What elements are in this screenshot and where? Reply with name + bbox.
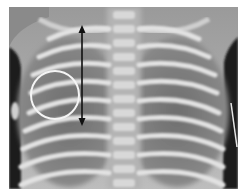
xray-image [9, 7, 238, 189]
chest-xray-graphic [9, 7, 238, 189]
